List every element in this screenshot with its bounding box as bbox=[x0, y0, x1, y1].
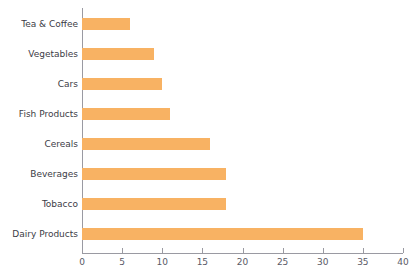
y-axis-category-label: Cars bbox=[58, 78, 78, 90]
y-axis-line bbox=[82, 8, 83, 253]
bar bbox=[82, 48, 154, 60]
bar-chart: 0510152025303540 Tea & CoffeeVegetablesC… bbox=[0, 0, 418, 280]
bar bbox=[82, 78, 162, 90]
x-axis-tick-label: 5 bbox=[119, 256, 125, 268]
x-axis-tick-label: 40 bbox=[397, 256, 408, 268]
x-axis-tick-label: 20 bbox=[237, 256, 248, 268]
x-axis-tick-mark bbox=[323, 248, 324, 253]
y-axis-category-label: Tobacco bbox=[42, 198, 78, 210]
bar bbox=[82, 168, 226, 180]
x-axis-tick-label: 30 bbox=[317, 256, 328, 268]
x-axis-tick-mark bbox=[403, 248, 404, 253]
x-axis-tick-mark bbox=[122, 248, 123, 253]
y-axis-category-label: Fish Products bbox=[19, 108, 78, 120]
x-axis-tick-mark bbox=[363, 248, 364, 253]
y-axis-category-label: Dairy Products bbox=[12, 228, 78, 240]
x-axis-tick-label: 25 bbox=[277, 256, 288, 268]
bar bbox=[82, 228, 363, 240]
bar bbox=[82, 18, 130, 30]
y-axis-category-label: Beverages bbox=[30, 168, 78, 180]
x-axis-tick-mark bbox=[202, 248, 203, 253]
y-axis-category-label: Tea & Coffee bbox=[21, 18, 78, 30]
bar bbox=[82, 198, 226, 210]
bar bbox=[82, 138, 210, 150]
bar bbox=[82, 108, 170, 120]
x-axis-tick-mark bbox=[283, 248, 284, 253]
x-axis-tick-mark bbox=[162, 248, 163, 253]
x-axis-tick-label: 10 bbox=[157, 256, 168, 268]
x-axis-tick-label: 0 bbox=[79, 256, 85, 268]
x-axis-tick-label: 35 bbox=[357, 256, 368, 268]
x-axis-tick-mark bbox=[82, 248, 83, 253]
x-axis-tick-mark bbox=[243, 248, 244, 253]
x-axis-line bbox=[82, 253, 403, 254]
x-axis-tick-label: 15 bbox=[197, 256, 208, 268]
y-axis-category-label: Cereals bbox=[44, 138, 78, 150]
y-axis-category-label: Vegetables bbox=[28, 48, 78, 60]
